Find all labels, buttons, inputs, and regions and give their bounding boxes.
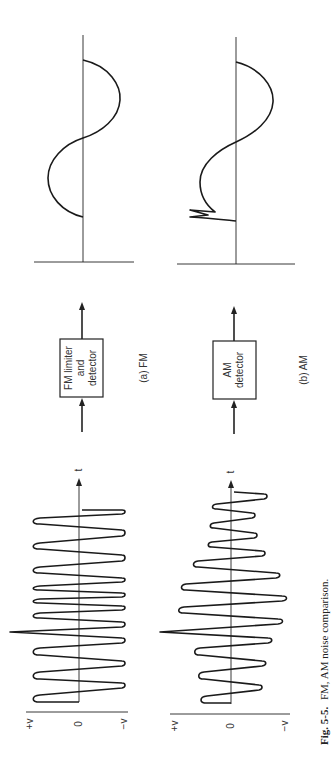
- fm-panel-label: (a) FM: [138, 353, 149, 382]
- am-panel-label: (b) AM: [298, 355, 309, 384]
- caption-text: FM, AM noise comparison.: [318, 578, 330, 700]
- fm-plus-v-label: +v: [24, 719, 35, 730]
- panel-fm: FM limiter and detector (a) FM t +v 0 −v: [10, 35, 149, 729]
- am-zero-label: 0: [225, 723, 236, 729]
- am-block-group: AM detector (b) AM: [213, 306, 309, 434]
- diagram-canvas: FM limiter and detector (a) FM t +v 0 −v: [0, 0, 336, 758]
- fm-block-group: FM limiter and detector (a) FM: [60, 302, 149, 432]
- fm-block-line-3: detector: [87, 349, 98, 386]
- am-block-line-2: detector: [234, 351, 245, 388]
- fm-minus-v-label: −v: [118, 719, 129, 730]
- fm-time-arrowhead-icon: [76, 478, 82, 486]
- fm-time-label: t: [73, 468, 84, 471]
- fm-input-signal-with-noise-spike: [10, 510, 125, 702]
- am-input-plot: t +v 0 −v: [160, 470, 290, 731]
- fm-zero-label: 0: [73, 721, 84, 727]
- am-time-arrowhead-icon: [228, 480, 234, 488]
- am-output-sine-with-spike: [190, 62, 273, 221]
- am-input-arrowhead-icon: [231, 400, 237, 408]
- am-plus-v-label: +v: [169, 721, 180, 732]
- panel-am: AM detector (b) AM t +v 0 −v: [160, 37, 309, 731]
- fm-input-arrowhead-icon: [79, 398, 85, 406]
- fm-output-arrowhead-icon: [79, 302, 85, 310]
- fm-input-plot: t +v 0 −v: [10, 468, 129, 729]
- figure-caption: Fig. 5-5. FM, AM noise comparison.: [318, 578, 330, 745]
- fm-block-line-1: FM limiter: [63, 345, 74, 390]
- am-input-signal-with-noise-spike: [160, 492, 287, 703]
- am-output-plot: [177, 37, 295, 264]
- fm-output-plot: [34, 35, 134, 262]
- fm-block-line-2: and: [75, 360, 86, 377]
- am-time-label: t: [225, 470, 236, 473]
- caption-figure-number: Fig. 5-5.: [318, 707, 330, 745]
- svg-text:Fig. 5-5. FM, AM noise c: Fig. 5-5. FM, AM noise comparison.: [318, 578, 330, 745]
- am-output-arrowhead-icon: [231, 306, 237, 314]
- fm-output-sine: [48, 60, 120, 217]
- am-block-line-1: AM: [222, 363, 233, 378]
- am-minus-v-label: −v: [279, 721, 290, 732]
